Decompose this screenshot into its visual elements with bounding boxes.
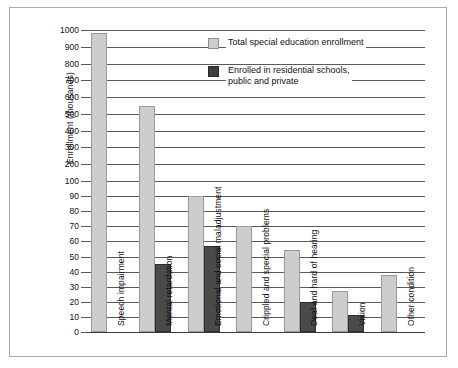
chart-frame: Enrollment (thousands) 10009008007006005…	[9, 7, 447, 357]
y-axis-tick-label: 50	[70, 252, 79, 262]
legend-item-total: Total special education enrollment	[208, 37, 366, 49]
bar-group: Other condition	[381, 30, 429, 332]
y-axis-tick-label: 20	[70, 297, 79, 307]
legend-swatch-total	[208, 38, 219, 49]
legend-label-residential: Enrolled in residential schools, public …	[226, 65, 352, 86]
legend-swatch-residential	[208, 66, 219, 77]
y-axis-tick-label: 10	[70, 312, 79, 322]
bar-total	[284, 250, 300, 332]
bar-group: Speech impairment	[91, 30, 139, 332]
y-axis-tick-label: 300	[65, 142, 79, 152]
y-axis-tick-label: 500	[65, 109, 79, 119]
y-axis-tick-label: 70	[70, 221, 79, 231]
category-label: Crippled and special problems	[261, 209, 271, 326]
category-label: Deaf and hard of hearing	[309, 230, 319, 326]
category-label: Speech impairment	[116, 251, 126, 326]
bar-total	[381, 275, 397, 332]
bar-total	[188, 196, 204, 332]
y-axis-tick-label: 1000	[60, 25, 79, 35]
category-label: Other condition	[406, 267, 416, 326]
bar-total	[91, 33, 107, 332]
y-axis-tick-label: 800	[65, 59, 79, 69]
y-axis-tick-label: 600	[65, 92, 79, 102]
y-axis-tick-label: 60	[70, 236, 79, 246]
y-axis-tick-label: 80	[70, 206, 79, 216]
y-axis-tick-label: 900	[65, 42, 79, 52]
y-axis-tick-label: 700	[65, 75, 79, 85]
category-label: Emotional and social maladjustment	[213, 187, 223, 326]
bar-total	[236, 226, 252, 332]
bar-total	[139, 106, 155, 333]
y-axis-tick-label: 400	[65, 126, 79, 136]
y-axis-tick-label: 30	[70, 282, 79, 292]
y-axis-tick-label: 100	[65, 176, 79, 186]
y-axis-tick-label: 0	[74, 327, 79, 337]
legend-item-residential: Enrolled in residential schools, public …	[208, 65, 352, 86]
y-axis-tick-label: 200	[65, 159, 79, 169]
y-axis-tick-label: 40	[70, 267, 79, 277]
bar-total	[332, 291, 348, 332]
category-label: Mental retardation	[164, 256, 174, 326]
bar-group: Mental retardation	[139, 30, 187, 332]
category-label: Vision	[357, 302, 367, 326]
y-axis-tick-label: 90	[70, 191, 79, 201]
gridline	[87, 332, 425, 333]
legend-label-total: Total special education enrollment	[226, 37, 366, 48]
